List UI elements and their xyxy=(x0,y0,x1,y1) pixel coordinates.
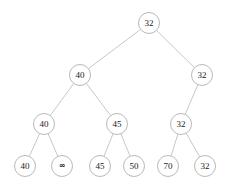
tree-edge xyxy=(121,134,130,156)
tree-node: ∞ xyxy=(51,155,73,177)
tree-edge xyxy=(51,84,74,115)
tree-edge xyxy=(157,31,194,68)
tree-node: 70 xyxy=(157,155,179,177)
tree-node-label: 45 xyxy=(113,120,122,129)
tree-node-label: 50 xyxy=(130,162,139,171)
binary-tree-diagram: 32403240453240∞45507032 xyxy=(0,0,225,186)
tree-edge xyxy=(186,134,199,157)
tree-node-label: 32 xyxy=(198,71,207,80)
tree-node-label: 32 xyxy=(201,162,210,171)
tree-node: 50 xyxy=(123,155,145,177)
tree-edge xyxy=(87,84,111,115)
tree-node: 32 xyxy=(170,113,192,135)
tree-node-label: 70 xyxy=(164,162,173,171)
tree-node: 40 xyxy=(33,113,55,135)
tree-edge xyxy=(48,134,57,156)
tree-node-label: 45 xyxy=(96,162,105,171)
tree-edge xyxy=(30,134,40,156)
tree-edge-layer xyxy=(0,0,225,186)
tree-node-label: 32 xyxy=(145,19,154,28)
tree-node-label: 32 xyxy=(177,120,186,129)
tree-edge xyxy=(171,135,178,156)
tree-edge xyxy=(89,30,140,69)
tree-edge xyxy=(185,85,197,114)
tree-node-label: 40 xyxy=(76,71,85,80)
tree-edge xyxy=(104,134,113,156)
tree-node: 32 xyxy=(194,155,216,177)
tree-node: 45 xyxy=(89,155,111,177)
tree-node-label: 40 xyxy=(21,162,30,171)
tree-node: 40 xyxy=(69,64,91,86)
tree-node-label: 40 xyxy=(40,120,49,129)
tree-node: 40 xyxy=(14,155,36,177)
tree-node: 45 xyxy=(106,113,128,135)
tree-node: 32 xyxy=(138,12,160,34)
tree-node: 32 xyxy=(191,64,213,86)
tree-node-label: ∞ xyxy=(59,162,66,170)
